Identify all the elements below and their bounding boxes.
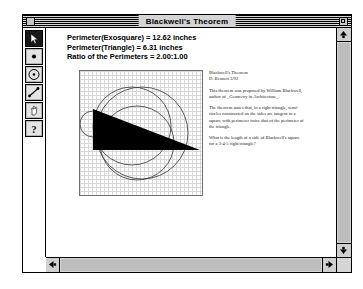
- help-tool[interactable]: ?: [25, 120, 43, 137]
- perimeter-exosquare: Perimeter(Exosquare) = 12.62 inches: [67, 33, 196, 43]
- zoom-box[interactable]: [339, 17, 348, 26]
- horizontal-scrollbar[interactable]: [46, 257, 336, 272]
- vertical-scroll-track[interactable]: [338, 43, 350, 242]
- point-tool[interactable]: [25, 48, 43, 65]
- tool-palette: ?: [23, 28, 46, 257]
- window-title: Blackwell's Theorem: [139, 15, 236, 28]
- note-author: D. Bennett 3/92: [209, 76, 304, 82]
- note-paragraph-3: What is the length of a side of Blackwel…: [209, 135, 304, 147]
- measurement-panel: Perimeter(Exosquare) = 12.62 inches Peri…: [67, 33, 196, 62]
- close-box[interactable]: [26, 17, 35, 26]
- perimeter-ratio: Ratio of the Perimeters = 2.00:1.00: [67, 52, 196, 62]
- scroll-right-arrow[interactable]: [322, 258, 336, 272]
- arrow-tool[interactable]: [25, 30, 43, 47]
- circle-tool[interactable]: [25, 66, 43, 83]
- horizontal-scroll-track[interactable]: [61, 259, 321, 271]
- application-window: Blackwell's Theorem: [22, 14, 352, 273]
- window-body: ? Perimeter(Exosquare) = 12.62 inches Pe…: [23, 28, 351, 272]
- svg-text:?: ?: [32, 124, 37, 135]
- scroll-down-arrow[interactable]: [337, 243, 351, 257]
- scroll-left-arrow[interactable]: [46, 258, 60, 272]
- geometry-figure[interactable]: [79, 70, 203, 196]
- construction-drawing: [80, 71, 203, 196]
- vertical-scrollbar[interactable]: [336, 28, 351, 257]
- screen: Blackwell's Theorem: [0, 0, 363, 289]
- note-paragraph-2: The theorem states that, in a right tria…: [209, 105, 304, 129]
- note-paragraph-1: This theorem was proposed by William Bla…: [209, 88, 304, 100]
- document-canvas[interactable]: Perimeter(Exosquare) = 12.62 inches Peri…: [46, 28, 336, 257]
- note-text: Blackwell's Theorem D. Bennett 3/92 This…: [209, 70, 304, 152]
- title-bar[interactable]: Blackwell's Theorem: [23, 15, 351, 28]
- segment-tool[interactable]: [25, 84, 43, 101]
- scrollbar-corner: [336, 257, 351, 272]
- scroll-up-arrow[interactable]: [337, 28, 351, 42]
- text-tool[interactable]: [25, 102, 43, 119]
- perimeter-triangle: Perimeter(Triangle) = 6.31 inches: [67, 43, 196, 53]
